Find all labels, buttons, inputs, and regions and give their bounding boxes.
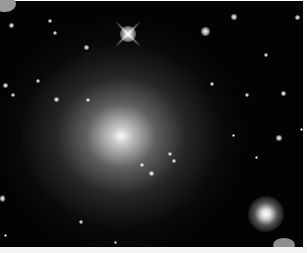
field-star xyxy=(0,195,5,202)
field-star xyxy=(53,31,57,35)
field-star xyxy=(3,83,8,88)
field-star xyxy=(255,156,258,159)
field-star xyxy=(4,234,7,237)
field-star xyxy=(172,159,176,163)
bright-star xyxy=(248,196,284,232)
field-star xyxy=(36,79,40,83)
field-star xyxy=(149,171,154,176)
field-star xyxy=(79,220,83,224)
bottom-border xyxy=(0,247,307,253)
field-star xyxy=(245,93,249,97)
field-star xyxy=(168,152,172,156)
field-star xyxy=(264,53,268,57)
field-star xyxy=(140,163,144,167)
field-star xyxy=(48,19,52,23)
astronomical-image xyxy=(0,1,303,247)
field-star xyxy=(210,82,214,86)
field-star xyxy=(201,27,210,36)
field-star xyxy=(86,98,90,102)
field-star xyxy=(114,241,117,244)
field-star xyxy=(231,14,237,20)
field-star xyxy=(9,23,14,28)
field-star xyxy=(232,134,235,137)
field-star xyxy=(11,93,15,97)
field-star xyxy=(281,91,286,96)
field-star xyxy=(84,45,89,50)
field-star xyxy=(276,135,282,141)
field-star xyxy=(300,128,303,131)
field-star xyxy=(295,15,300,20)
field-star xyxy=(54,97,59,102)
